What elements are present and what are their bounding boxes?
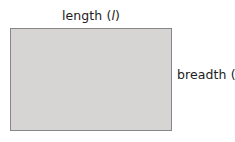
figure-root: length (l) breadth (b)	[0, 0, 235, 142]
length-label-word: length	[62, 8, 102, 23]
breadth-label-open-paren: (	[231, 67, 235, 82]
rectangle-shape	[10, 28, 172, 131]
breadth-label-word: breadth	[177, 67, 227, 82]
breadth-label: breadth (b)	[177, 68, 235, 82]
length-label-close-paren: )	[115, 8, 120, 23]
length-label: length (l)	[10, 9, 172, 23]
